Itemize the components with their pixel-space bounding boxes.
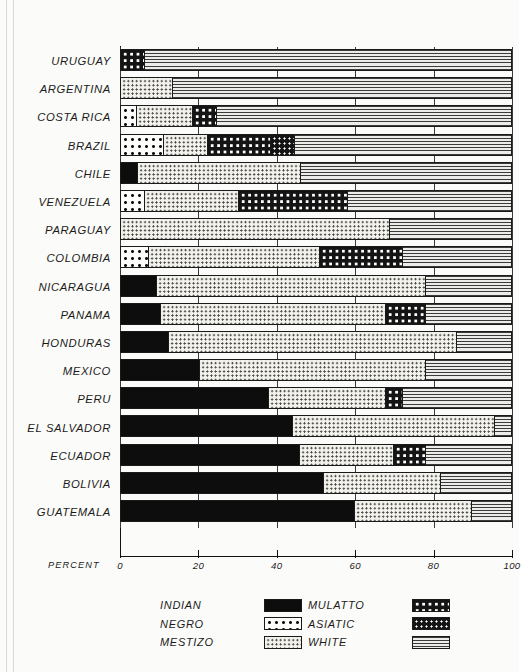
bar-row xyxy=(120,357,512,385)
bar-segment-mestizo xyxy=(268,388,385,408)
bar-segment-indian xyxy=(121,445,299,465)
country-label-nicaragua: NICARAGUA xyxy=(0,273,116,301)
x-tick-20 xyxy=(198,550,199,558)
bar-segment-mestizo xyxy=(121,78,172,98)
legend-swatch-white xyxy=(412,636,450,649)
stacked-bar-el-salvador xyxy=(120,415,512,437)
bar-segment-mestizo xyxy=(299,445,393,465)
country-label-paraguay: PARAGUAY xyxy=(0,216,116,244)
bar-segment-mulatto xyxy=(385,388,401,408)
bar-segment-mestizo xyxy=(148,247,319,267)
bar-segment-mestizo xyxy=(354,501,471,521)
stacked-bar-honduras xyxy=(120,331,512,353)
bar-segment-white xyxy=(389,219,511,239)
country-label-argentina: ARGENTINA xyxy=(0,75,116,103)
bar-segment-negro xyxy=(121,191,144,211)
x-tick-label-80: 80 xyxy=(428,560,439,571)
bar-segment-white xyxy=(440,473,511,493)
x-tick-label-100: 100 xyxy=(503,560,520,571)
bar-segment-white xyxy=(456,332,511,352)
stacked-bar-brazil xyxy=(120,134,512,156)
country-label-costa-rica: COSTA RICA xyxy=(0,103,116,131)
country-label-honduras: HONDURAS xyxy=(0,329,116,357)
country-label-el-salvador: EL SALVADOR xyxy=(0,413,116,441)
bar-row xyxy=(120,160,512,188)
legend-item-negro: NEGRO xyxy=(160,615,302,634)
x-axis-caption: PERCENT xyxy=(48,560,100,570)
bar-segment-white xyxy=(172,78,511,98)
legend-swatch-indian xyxy=(264,599,302,612)
bar-segment-white xyxy=(425,276,511,296)
bar-segment-mestizo xyxy=(199,360,425,380)
x-tick-label-60: 60 xyxy=(349,560,360,571)
bar-segment-indian xyxy=(121,163,137,183)
bar-segment-mestizo xyxy=(136,106,191,126)
x-axis-line xyxy=(120,556,512,557)
bar-segment-mulatto xyxy=(238,191,347,211)
legend-label-asiatic: ASIATIC xyxy=(308,618,412,630)
bar-segment-mestizo xyxy=(121,219,389,239)
bar-row xyxy=(120,442,512,470)
bar-row xyxy=(120,301,512,329)
bar-segment-mulatto xyxy=(393,445,425,465)
bar-segment-white xyxy=(294,135,511,155)
legend-item-indian: INDIAN xyxy=(160,596,302,615)
legend-item-asiatic: ASIATIC xyxy=(308,615,450,634)
bar-segment-white xyxy=(402,388,511,408)
stacked-bar-bolivia xyxy=(120,472,512,494)
country-label-bolivia: BOLIVIA xyxy=(0,470,116,498)
bar-segment-indian xyxy=(121,388,268,408)
bar-segment-negro xyxy=(121,106,136,126)
bar-segment-mestizo xyxy=(323,473,440,493)
x-tick-label-40: 40 xyxy=(271,560,282,571)
stacked-bar-guatemala xyxy=(120,500,512,522)
country-label-panama: PANAMA xyxy=(0,301,116,329)
legend-item-mestizo: MESTIZO xyxy=(160,633,302,652)
stacked-bar-nicaragua xyxy=(120,275,512,297)
stacked-bar-paraguay xyxy=(120,218,512,240)
bar-row xyxy=(120,132,512,160)
legend-swatch-asiatic xyxy=(412,617,450,630)
stacked-bar-panama xyxy=(120,303,512,325)
legend-label-indian: INDIAN xyxy=(160,599,264,611)
bar-row xyxy=(120,47,512,75)
bar-row xyxy=(120,216,512,244)
bar-row xyxy=(120,273,512,301)
bar-segment-mestizo xyxy=(160,304,385,324)
stacked-bar-peru xyxy=(120,387,512,409)
country-label-chile: CHILE xyxy=(0,160,116,188)
bar-segment-white xyxy=(216,106,511,126)
x-tick-80 xyxy=(434,550,435,558)
country-label-mexico: MEXICO xyxy=(0,357,116,385)
bar-segment-white xyxy=(425,360,511,380)
x-tick-60 xyxy=(355,550,356,558)
legend-column-one: INDIANNEGROMESTIZO xyxy=(160,596,302,652)
bar-row xyxy=(120,413,512,441)
bar-segment-white xyxy=(471,501,511,521)
bar-segment-mulatto xyxy=(207,135,270,155)
country-label-peru: PERU xyxy=(0,385,116,413)
stacked-bar-mexico xyxy=(120,359,512,381)
bar-row xyxy=(120,244,512,272)
legend-swatch-mulatto xyxy=(412,599,450,612)
legend-label-mestizo: MESTIZO xyxy=(160,636,264,648)
bar-row xyxy=(120,75,512,103)
bar-segment-mestizo xyxy=(163,135,206,155)
bar-segment-indian xyxy=(121,501,354,521)
bar-segment-mulatto xyxy=(192,106,216,126)
x-tick-0 xyxy=(120,550,121,558)
country-label-guatemala: GUATEMALA xyxy=(0,498,116,526)
bar-row xyxy=(120,188,512,216)
bar-row xyxy=(120,498,512,526)
bar-segment-indian xyxy=(121,416,292,436)
bar-segment-mestizo xyxy=(156,276,425,296)
bar-segment-indian xyxy=(121,304,160,324)
bar-segment-mestizo xyxy=(144,191,238,211)
bar-rows xyxy=(120,47,512,526)
bar-segment-asiatic xyxy=(270,135,294,155)
country-label-column: URUGUAYARGENTINACOSTA RICABRAZILCHILEVEN… xyxy=(0,47,116,526)
bar-row xyxy=(120,470,512,498)
bar-segment-indian xyxy=(121,276,156,296)
country-label-ecuador: ECUADOR xyxy=(0,442,116,470)
gridline-100 xyxy=(512,47,513,528)
